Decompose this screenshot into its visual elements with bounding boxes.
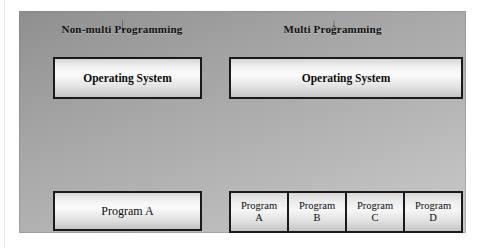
program-cell-d: Program D: [405, 193, 461, 231]
program-cell-a-line2: A: [255, 212, 263, 224]
os-box-multi: Operating System: [229, 57, 463, 99]
program-cell-b-line1: Program: [299, 200, 335, 212]
program-cell-c-line2: C: [371, 212, 378, 224]
program-cell-a-line1: Program: [241, 200, 277, 212]
column-multi-programming: Multi Programming Operating System Progr…: [205, 11, 460, 35]
program-cell-d-line2: D: [429, 212, 437, 224]
column-title-multi: Multi Programming: [205, 23, 460, 35]
program-strip-multi: Program A Program B Program C Program D: [229, 191, 463, 233]
column-non-multi-programming: Non-multi Programming Operating System P…: [33, 11, 211, 35]
diagram-panel: Non-multi Programming Operating System P…: [19, 11, 466, 233]
left-edge-artifact: [4, 0, 5, 248]
program-cell-c: Program C: [347, 193, 405, 231]
program-cell-d-line1: Program: [415, 200, 451, 212]
os-box-non-multi: Operating System: [53, 57, 202, 99]
program-box-a-non-multi: Program A: [53, 191, 202, 231]
program-cell-b-line2: B: [313, 212, 320, 224]
program-cell-b: Program B: [289, 193, 347, 231]
program-cell-c-line1: Program: [357, 200, 393, 212]
program-cell-a: Program A: [231, 193, 289, 231]
column-title-non-multi: Non-multi Programming: [33, 23, 211, 35]
